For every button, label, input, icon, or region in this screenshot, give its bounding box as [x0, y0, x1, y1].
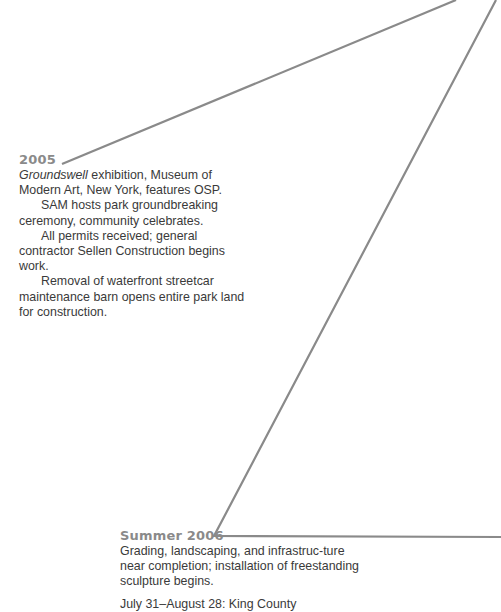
entry-paragraph: SAM hosts park groundbreaking ceremony, … — [19, 198, 249, 228]
exhibition-title: Groundswell — [19, 168, 88, 182]
timeline-entry-2005: 2005 Groundswell exhibition, Museum of M… — [19, 152, 249, 320]
entry-year: 2005 — [19, 152, 249, 168]
entry-paragraph: July 31–August 28: King County — [120, 597, 360, 612]
entry-paragraph: Removal of waterfront streetcar maintena… — [19, 274, 249, 320]
entry-paragraph: Grading, landscaping, and infrastruc-tur… — [120, 544, 360, 590]
entry-paragraph: Groundswell exhibition, Museum of Modern… — [19, 168, 249, 198]
timeline-entry-summer-2006: Summer 2006 Grading, landscaping, and in… — [120, 528, 360, 612]
entry-paragraph: All permits received; general contractor… — [19, 229, 249, 275]
entry-year: Summer 2006 — [120, 528, 360, 544]
